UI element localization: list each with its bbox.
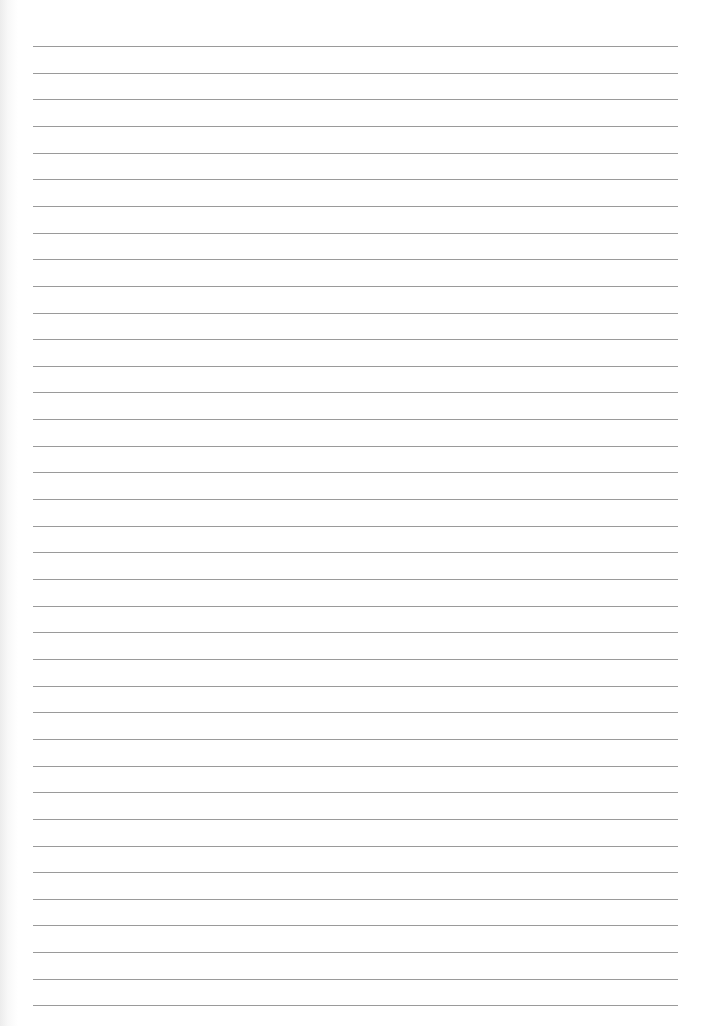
dotted-rule-line: [33, 526, 678, 527]
dotted-rule-line: [33, 153, 678, 154]
dotted-rule-line: [33, 179, 678, 180]
dotted-rule-line: [33, 899, 678, 900]
dotted-rule-line: [33, 925, 678, 926]
dotted-rule-line: [33, 419, 678, 420]
dotted-rule-line: [33, 446, 678, 447]
dotted-rule-line: [33, 206, 678, 207]
dotted-rule-line: [33, 1005, 678, 1006]
dotted-rule-line: [33, 846, 678, 847]
dotted-rule-line: [33, 819, 678, 820]
dotted-rule-line: [33, 73, 678, 74]
dotted-rule-line: [33, 313, 678, 314]
dotted-rule-line: [33, 472, 678, 473]
dotted-rule-line: [33, 552, 678, 553]
dotted-rule-line: [33, 392, 678, 393]
lined-paper-page: [0, 0, 714, 1026]
dotted-rule-line: [33, 366, 678, 367]
dotted-rule-line: [33, 766, 678, 767]
dotted-rule-line: [33, 46, 678, 47]
dotted-rule-line: [33, 579, 678, 580]
dotted-rule-line: [33, 979, 678, 980]
dotted-rule-line: [33, 99, 678, 100]
dotted-rule-line: [33, 872, 678, 873]
dotted-rule-line: [33, 712, 678, 713]
dotted-rule-line: [33, 792, 678, 793]
dotted-rule-line: [33, 499, 678, 500]
dotted-rule-line: [33, 686, 678, 687]
dotted-rule-line: [33, 339, 678, 340]
dotted-rule-line: [33, 286, 678, 287]
dotted-rule-line: [33, 659, 678, 660]
dotted-rule-line: [33, 126, 678, 127]
dotted-rule-line: [33, 233, 678, 234]
dotted-rule-line: [33, 952, 678, 953]
dotted-rule-line: [33, 259, 678, 260]
dotted-rule-line: [33, 606, 678, 607]
dotted-rule-line: [33, 632, 678, 633]
dotted-rule-line: [33, 739, 678, 740]
